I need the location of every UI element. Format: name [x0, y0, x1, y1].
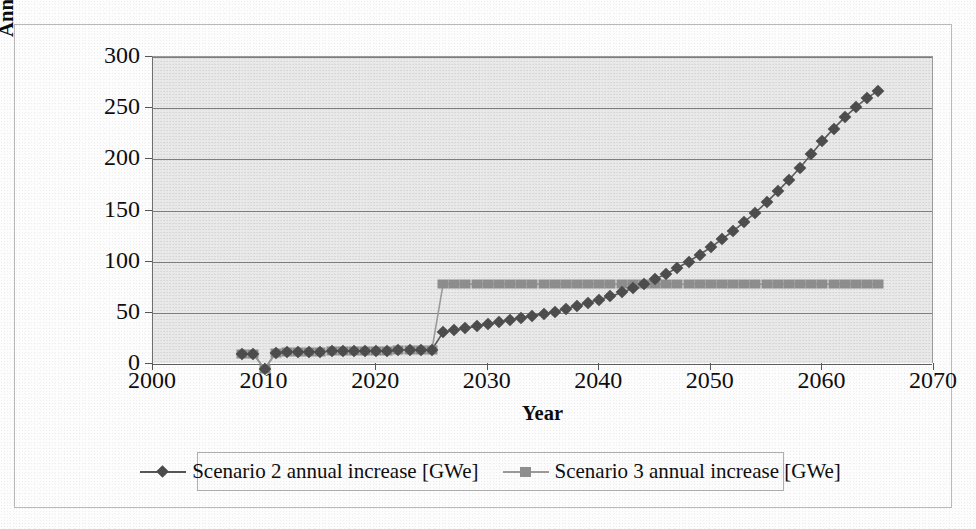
- data-point-square: [795, 280, 806, 289]
- data-point-square: [594, 280, 605, 289]
- data-point-square: [460, 280, 471, 289]
- y-tick-mark: [145, 107, 152, 108]
- x-tick-label: 2040: [574, 368, 622, 392]
- data-point-square: [705, 280, 716, 289]
- data-point-square: [471, 280, 482, 289]
- x-tick-label: 2000: [128, 368, 176, 392]
- figure-page: Annual increase of nuclear capacity [GWe…: [0, 0, 976, 529]
- legend-item-scenario-3: Scenario 3 annual increase [GWe]: [503, 459, 841, 484]
- data-point-square: [661, 280, 672, 289]
- x-tick-label: 2060: [797, 368, 845, 392]
- data-point-square: [549, 280, 560, 289]
- data-point-square: [850, 280, 861, 289]
- y-tick-mark: [145, 363, 152, 364]
- series-line-1: [242, 91, 878, 369]
- data-point-square: [761, 280, 772, 289]
- data-point-square: [527, 280, 538, 289]
- y-tick-mark: [145, 56, 152, 57]
- y-axis-title-line2: [GWe]: [18, 0, 42, 44]
- x-axis-title: Year: [152, 402, 933, 425]
- y-tick-label: 100: [104, 248, 140, 272]
- data-point-square: [605, 280, 616, 289]
- y-tick-mark: [145, 210, 152, 211]
- data-point-square: [538, 280, 549, 289]
- data-point-square: [772, 280, 783, 289]
- data-point-square: [750, 280, 761, 289]
- data-point-square: [449, 280, 460, 289]
- data-point-square: [672, 280, 683, 289]
- data-point-square: [505, 280, 516, 289]
- y-tick-label: 300: [104, 43, 140, 67]
- x-tick-label: 2050: [686, 368, 734, 392]
- y-axis-title: Annual increase of nuclear capacity [GWe…: [0, 0, 42, 44]
- y-tick-label: 150: [104, 197, 140, 221]
- data-point-square: [783, 280, 794, 289]
- x-tick-label: 2070: [909, 368, 957, 392]
- data-point-square: [739, 280, 750, 289]
- data-point-square: [728, 280, 739, 289]
- data-point-square: [839, 280, 850, 289]
- data-point-square: [806, 280, 817, 289]
- data-point-square: [828, 280, 839, 289]
- y-tick-mark: [145, 158, 152, 159]
- legend-label-scenario-2: Scenario 2 annual increase [GWe]: [192, 459, 478, 484]
- y-tick-mark: [145, 261, 152, 262]
- legend-label-scenario-3: Scenario 3 annual increase [GWe]: [555, 459, 841, 484]
- y-tick-label: 50: [116, 299, 140, 323]
- y-tick-label: 250: [104, 94, 140, 118]
- data-point-square: [516, 280, 527, 289]
- line-chart: Annual increase of nuclear capacity [GWe…: [0, 0, 976, 529]
- data-point-square: [571, 280, 582, 289]
- data-point-square: [873, 280, 884, 289]
- chart-legend: Scenario 2 annual increase [GWe] Scenari…: [197, 452, 784, 491]
- square-marker-icon: [503, 465, 549, 479]
- data-point-square: [493, 280, 504, 289]
- x-tick-mark: [933, 363, 934, 370]
- series-line-2: [242, 284, 878, 369]
- data-point-square: [817, 280, 828, 289]
- data-point-square: [482, 280, 493, 289]
- x-tick-label: 2020: [351, 368, 399, 392]
- data-point-square: [583, 280, 594, 289]
- data-point-square: [560, 280, 571, 289]
- y-axis-title-line1: Annual increase of nuclear capacity: [0, 0, 18, 44]
- data-point-square: [694, 280, 705, 289]
- data-point-square: [438, 280, 449, 289]
- y-tick-label: 200: [104, 145, 140, 169]
- legend-item-scenario-2: Scenario 2 annual increase [GWe]: [140, 459, 478, 484]
- y-tick-mark: [145, 312, 152, 313]
- data-point-square: [717, 280, 728, 289]
- data-point-square: [862, 280, 873, 289]
- plot-area: [152, 56, 933, 363]
- diamond-marker-icon: [140, 465, 186, 479]
- x-tick-label: 2030: [463, 368, 511, 392]
- data-point-square: [683, 280, 694, 289]
